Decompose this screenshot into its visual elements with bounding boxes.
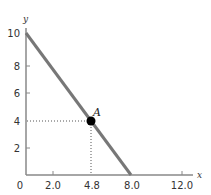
x-tick-label: 4.8 [84, 180, 100, 191]
x-tick-label: 8.0 [124, 180, 140, 191]
y-axis-label: y [22, 14, 29, 24]
chart: y x 10 8 6 4 2 0 2.0 4.8 8.0 12.0 A [0, 0, 211, 195]
y-tick-label: 6 [14, 88, 20, 99]
y-tick-label: 10 [7, 28, 20, 39]
data-line [26, 33, 131, 175]
y-tick-label: 2 [14, 143, 20, 154]
y-tick-label: 8 [14, 61, 20, 72]
x-axis-label: x [197, 170, 202, 180]
y-tick-label: 4 [14, 116, 20, 127]
x-tick-label: 2.0 [45, 180, 61, 191]
x-tick-label: 12.0 [171, 180, 193, 191]
x-ticks: 0 2.0 4.8 8.0 12.0 [17, 171, 193, 191]
point-a-label: A [92, 106, 101, 119]
x-tick-label: 0 [17, 180, 23, 191]
